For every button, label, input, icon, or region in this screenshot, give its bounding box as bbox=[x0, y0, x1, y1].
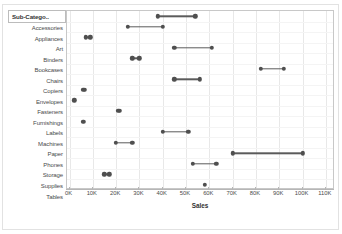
mark-row-chairs[interactable] bbox=[67, 64, 333, 75]
x-tick-label-40k: 40K bbox=[157, 190, 167, 196]
data-point-min[interactable] bbox=[191, 161, 195, 165]
data-point-max[interactable] bbox=[186, 130, 190, 134]
mark-row-furnishings[interactable] bbox=[67, 106, 333, 117]
data-point-max[interactable] bbox=[198, 77, 202, 81]
category-label-copiers[interactable]: Copiers bbox=[8, 86, 66, 97]
x-tick-label-100k: 100K bbox=[295, 190, 309, 196]
data-point-min[interactable] bbox=[156, 14, 160, 18]
category-label-machines[interactable]: Machines bbox=[8, 139, 66, 150]
category-label-text: Storage bbox=[43, 172, 63, 178]
mark-row-fasteners[interactable] bbox=[67, 95, 333, 106]
range-connector bbox=[174, 79, 200, 80]
mark-row-paper[interactable] bbox=[67, 137, 333, 148]
data-point-min[interactable] bbox=[230, 151, 234, 155]
mark-row-storage[interactable] bbox=[67, 158, 333, 169]
category-label-supplies[interactable]: Supplies bbox=[8, 181, 66, 192]
category-label-text: Fasteners bbox=[37, 109, 63, 115]
category-label-binders[interactable]: Binders bbox=[8, 55, 66, 66]
category-label-text: Accessories bbox=[32, 25, 63, 31]
mark-row-supplies[interactable] bbox=[67, 169, 333, 180]
mark-row-labels[interactable] bbox=[67, 116, 333, 127]
category-label-text: Phones bbox=[43, 162, 63, 168]
data-point-max[interactable] bbox=[161, 25, 165, 29]
mark-row-accessories[interactable] bbox=[67, 11, 333, 22]
category-label-text: Supplies bbox=[41, 183, 63, 189]
category-label-text: Art bbox=[56, 46, 63, 52]
category-axis: AccessoriesAppliancesArtBindersBookcases… bbox=[8, 23, 66, 189]
sales-range-chart: Sub-Catego.. AccessoriesAppliancesArtBin… bbox=[0, 0, 342, 234]
category-label-text: Labels bbox=[46, 130, 63, 136]
range-connector bbox=[261, 68, 284, 69]
data-point-max[interactable] bbox=[300, 151, 304, 155]
mark-row-appliances[interactable] bbox=[67, 22, 333, 33]
category-label-text: Envelopes bbox=[36, 99, 63, 105]
mark-row-copiers[interactable] bbox=[67, 74, 333, 85]
data-point-min[interactable] bbox=[72, 98, 76, 102]
x-tick-label-10k: 10K bbox=[87, 190, 97, 196]
category-label-phones[interactable]: Phones bbox=[8, 160, 66, 171]
category-label-chairs[interactable]: Chairs bbox=[8, 76, 66, 87]
mark-row-bookcases[interactable] bbox=[67, 53, 333, 64]
category-label-fasteners[interactable]: Fasteners bbox=[8, 107, 66, 118]
category-label-tables[interactable]: Tables bbox=[8, 191, 66, 202]
data-point-min[interactable] bbox=[202, 183, 206, 187]
range-connector bbox=[158, 16, 195, 17]
data-point-max[interactable] bbox=[88, 35, 92, 39]
data-point-min[interactable] bbox=[258, 67, 262, 71]
mark-row-phones[interactable] bbox=[67, 148, 333, 159]
column-header-sub-category[interactable]: Sub-Catego.. bbox=[8, 10, 66, 23]
category-label-text: Furnishings bbox=[33, 120, 63, 126]
category-label-text: Tables bbox=[46, 194, 63, 200]
range-connector bbox=[233, 152, 303, 153]
data-point-min[interactable] bbox=[172, 77, 176, 81]
data-point-min[interactable] bbox=[114, 140, 118, 144]
category-label-text: Appliances bbox=[35, 36, 63, 42]
category-label-bookcases[interactable]: Bookcases bbox=[8, 65, 66, 76]
data-point-max[interactable] bbox=[282, 67, 286, 71]
data-point-max[interactable] bbox=[137, 56, 141, 60]
category-label-envelopes[interactable]: Envelopes bbox=[8, 97, 66, 108]
x-tick-label-80k: 80K bbox=[250, 190, 260, 196]
range-connector bbox=[128, 26, 163, 27]
x-tick-label-20k: 20K bbox=[110, 190, 120, 196]
category-label-paper[interactable]: Paper bbox=[8, 149, 66, 160]
x-tick-label-50k: 50K bbox=[180, 190, 190, 196]
mark-row-machines[interactable] bbox=[67, 127, 333, 138]
category-label-art[interactable]: Art bbox=[8, 44, 66, 55]
mark-row-binders[interactable] bbox=[67, 43, 333, 54]
category-label-storage[interactable]: Storage bbox=[8, 170, 66, 181]
category-label-text: Paper bbox=[47, 151, 63, 157]
mark-row-envelopes[interactable] bbox=[67, 85, 333, 96]
data-point-max[interactable] bbox=[209, 46, 213, 50]
data-point-min[interactable] bbox=[81, 119, 85, 123]
column-header-label: Sub-Catego.. bbox=[9, 13, 49, 20]
data-point-max[interactable] bbox=[130, 140, 134, 144]
x-tick-label-60k: 60K bbox=[203, 190, 213, 196]
category-label-labels[interactable]: Labels bbox=[8, 128, 66, 139]
data-point-min[interactable] bbox=[126, 25, 130, 29]
data-point-max[interactable] bbox=[214, 161, 218, 165]
category-label-text: Copiers bbox=[43, 88, 63, 94]
category-label-text: Bookcases bbox=[35, 67, 63, 73]
data-point-min[interactable] bbox=[161, 130, 165, 134]
category-label-appliances[interactable]: Appliances bbox=[8, 34, 66, 45]
category-label-furnishings[interactable]: Furnishings bbox=[8, 118, 66, 129]
range-connector bbox=[163, 131, 189, 132]
mark-row-art[interactable] bbox=[67, 32, 333, 43]
data-point-min[interactable] bbox=[130, 56, 134, 60]
x-tick-label-0k: 0K bbox=[65, 190, 72, 196]
category-label-text: Chairs bbox=[46, 78, 63, 84]
mark-row-tables[interactable] bbox=[67, 179, 333, 189]
x-tick-label-30k: 30K bbox=[133, 190, 143, 196]
x-axis-title: Sales bbox=[66, 202, 334, 209]
x-tick-label-110k: 110K bbox=[318, 190, 331, 196]
plot-area bbox=[66, 10, 334, 189]
data-point-max[interactable] bbox=[107, 172, 111, 176]
data-point-max[interactable] bbox=[82, 88, 86, 92]
range-connector bbox=[193, 163, 216, 164]
x-axis-ticks: 0K10K20K30K40K50K60K70K80K90K100K110K bbox=[66, 190, 334, 202]
category-label-accessories[interactable]: Accessories bbox=[8, 23, 66, 34]
data-point-min[interactable] bbox=[172, 46, 176, 50]
data-point-max[interactable] bbox=[117, 109, 121, 113]
data-point-max[interactable] bbox=[193, 14, 197, 18]
